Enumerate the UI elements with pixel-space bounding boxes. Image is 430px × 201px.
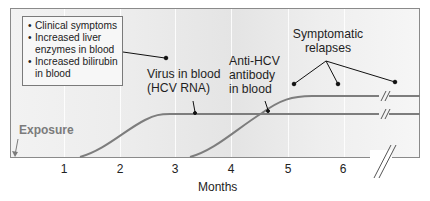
symptomatic-relapses-label: Symptomatic relapses (290, 27, 366, 55)
finding-bilirubin: Increased bilirubinin blood (28, 56, 118, 80)
axis-break-marks (370, 90, 396, 178)
tick-month-4: 4 (221, 162, 241, 176)
anti-hcv-curve (190, 96, 420, 157)
tick-month-3: 3 (165, 162, 185, 176)
x-axis-title: Months (198, 180, 237, 194)
finding-clinical-symptoms: Clinical symptoms (28, 20, 118, 32)
virus-rna-label: Virus in blood (HCV RNA) (147, 67, 221, 95)
anti-hcv-label: Anti-HCV antibody in blood (229, 54, 280, 96)
tick-month-5: 5 (278, 162, 298, 176)
tick-month-1: 1 (54, 162, 74, 176)
exposure-label: Exposure (19, 123, 74, 137)
tick-month-6: 6 (333, 162, 353, 176)
finding-liver-enzymes: Increased liverenzymes in blood (28, 32, 118, 56)
hcv-timeline-diagram: Clinical symptoms Increased liverenzymes… (0, 0, 430, 201)
tick-month-2: 2 (110, 162, 130, 176)
clinical-findings-box: Clinical symptoms Increased liverenzymes… (22, 16, 123, 86)
